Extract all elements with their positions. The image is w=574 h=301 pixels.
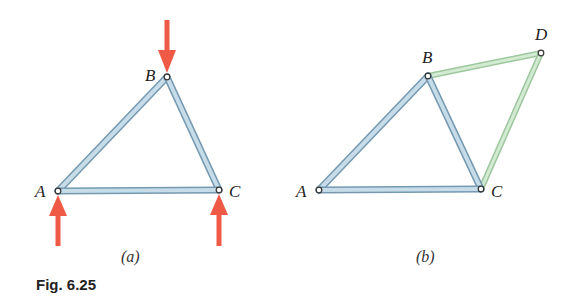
pin-b — [425, 73, 431, 79]
node-label-d: D — [534, 25, 548, 44]
truss-members-b — [319, 76, 481, 190]
pin-a — [316, 187, 322, 193]
figure-caption: Fig. 6.25 — [36, 276, 96, 293]
panel-a-sublabel: (a) — [121, 248, 140, 266]
node-label-c: C — [491, 182, 503, 201]
panel-a: A B C (a) — [34, 20, 241, 266]
node-label-c: C — [229, 182, 241, 201]
pin-c — [216, 187, 222, 193]
force-arrow-c-up — [210, 194, 228, 246]
force-arrow-a-up — [49, 195, 67, 246]
truss-figure: A B C (a) A B C D (b) — [0, 0, 574, 301]
panel-b-sublabel: (b) — [416, 248, 435, 266]
added-members-b — [428, 53, 541, 189]
pin-b — [164, 74, 170, 80]
node-label-a: A — [34, 182, 46, 201]
node-label-a: A — [295, 182, 307, 201]
force-arrow-b-down — [158, 20, 176, 73]
node-label-b: B — [422, 48, 433, 67]
truss-members-a — [58, 77, 219, 191]
node-label-b: B — [145, 66, 156, 85]
pin-d — [538, 50, 544, 56]
pin-a — [55, 188, 61, 194]
panel-b: A B C D (b) — [295, 25, 548, 266]
pin-c — [478, 186, 484, 192]
